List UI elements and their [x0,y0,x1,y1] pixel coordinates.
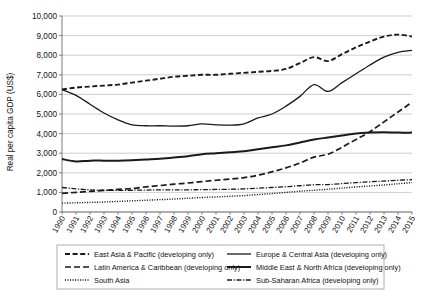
legend-item-label: East Asia & Pacific (developing only) [94,250,214,259]
y-axis-tick-labels: 10,0009,0008,0007,0006,0005,0004,0003,00… [32,12,57,217]
x-axis-tick-label: 1991 [65,214,82,234]
y-axis-tick-label: 5,000 [37,110,58,119]
x-axis-tick-label: 1992 [79,214,96,234]
x-axis-tick-label: 2007 [289,214,306,234]
x-axis-tick-label: 2009 [317,214,334,234]
x-axis-tick-label: 1994 [107,214,124,234]
chart-container: 10,0009,0008,0007,0006,0005,0004,0003,00… [0,0,433,301]
x-axis-tick-label: 2003 [233,214,250,234]
legend-item[interactable]: Middle East & North Africa (developing o… [227,263,401,272]
x-axis-tick-labels: 1990199119921993199419951996199719981999… [51,212,418,234]
legend-item[interactable]: South Asia [65,276,130,285]
legend-item[interactable]: Latin America & Caribbean (developing on… [65,263,240,272]
x-axis-tick-label: 1998 [163,214,180,234]
x-axis-tick-label: 2012 [359,214,376,234]
x-axis-tick-label: 2000 [191,214,208,234]
y-axis-tick-label: 2,000 [37,169,58,178]
y-axis-tick-label: 7,000 [37,71,58,80]
series-line [62,35,412,90]
legend-item-label: Middle East & North Africa (developing o… [256,263,401,272]
legend-item-label: Europe & Central Asia (developing only) [256,250,387,259]
y-axis-tick-label: 6,000 [37,90,58,99]
y-axis-tick-label: 1,000 [37,188,58,197]
x-axis-tick-label: 1996 [135,214,152,234]
x-axis-tick-label: 1993 [93,214,110,234]
legend-item[interactable]: East Asia & Pacific (developing only) [65,250,214,259]
x-axis-tick-label: 2005 [261,214,278,234]
series-line [62,180,412,191]
y-axis-tick-label: 10,000 [32,12,57,21]
x-axis-tick-label: 2014 [387,214,404,234]
chart-legend: East Asia & Pacific (developing only)Eur… [57,245,401,289]
x-axis-tick-label: 2001 [205,214,222,234]
legend-item-label: Latin America & Caribbean (developing on… [94,263,240,272]
series-line [62,102,412,193]
y-axis-tick-label: 8,000 [37,51,58,60]
x-axis-tick-label: 2013 [373,214,390,234]
x-axis-tick-label: 2015 [401,214,418,234]
x-axis-tick-label: 2010 [331,214,348,234]
legend-item-label: Sub-Saharan Africa (developing only) [256,276,378,285]
legend-item[interactable]: Europe & Central Asia (developing only) [227,250,387,259]
x-axis-tick-label: 1995 [121,214,138,234]
x-axis-tick-label: 1990 [51,214,68,234]
y-axis-tick-label: 3,000 [37,149,58,158]
series-line [62,183,412,204]
series-line [62,50,412,126]
y-axis-tick-label: 0 [52,208,57,217]
gdp-line-chart: 10,0009,0008,0007,0006,0005,0004,0003,00… [0,0,433,301]
y-axis-tick-label: 9,000 [37,32,58,41]
x-axis-tick-label: 2002 [219,214,236,234]
data-series-group [62,35,412,204]
x-axis-tick-label: 2006 [275,214,292,234]
x-axis-tick-label: 2008 [303,214,320,234]
y-axis-tick-label: 4,000 [37,130,58,139]
y-axis-title: Real per capita GDP (US$) [6,72,15,171]
legend-item-label: South Asia [94,276,130,285]
legend-item[interactable]: Sub-Saharan Africa (developing only) [227,276,378,285]
x-axis-tick-label: 2004 [247,214,264,234]
x-axis-tick-label: 1997 [149,214,166,234]
x-axis-tick-label: 1999 [177,214,194,234]
